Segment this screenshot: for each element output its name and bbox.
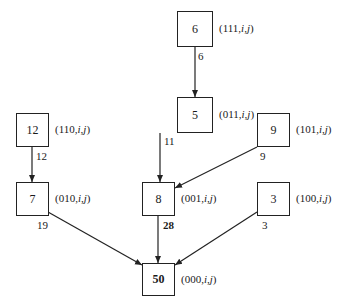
- edge-weight-n100: 3: [262, 219, 268, 231]
- node-n001: 8: [142, 182, 175, 216]
- node-label-n110: (110,i,j): [55, 123, 90, 135]
- node-n101: 9: [257, 113, 290, 147]
- node-n100: 3: [257, 182, 290, 216]
- edge-n100-n000: [175, 212, 257, 265]
- edge-weight-n010: 19: [37, 219, 48, 231]
- edge-layer: [0, 0, 345, 306]
- node-n110: 12: [16, 113, 49, 147]
- edge-n101-n001: [175, 147, 257, 188]
- edge-weight-n111: 6: [198, 50, 204, 62]
- edge-weight-n011: 11: [164, 135, 175, 147]
- node-n111: 6: [177, 11, 213, 47]
- node-n011: 5: [177, 97, 213, 133]
- node-label-n010: (010,i,j): [55, 192, 90, 204]
- edge-weight-n110: 12: [36, 150, 47, 162]
- node-n000: 50: [142, 263, 175, 296]
- node-n010: 7: [16, 182, 49, 216]
- edge-weight-n101: 9: [260, 150, 266, 162]
- node-label-n011: (011,i,j): [219, 108, 254, 120]
- node-label-n001: (001,i,j): [181, 192, 216, 204]
- node-label-n111: (111,i,j): [219, 22, 254, 34]
- edge-n010-n000: [48, 212, 142, 265]
- node-label-n101: (101,i,j): [296, 123, 331, 135]
- edge-weight-n001: 28: [163, 219, 174, 231]
- node-label-n100: (100,i,j): [296, 192, 331, 204]
- node-label-n000: (000,i,j): [181, 273, 216, 285]
